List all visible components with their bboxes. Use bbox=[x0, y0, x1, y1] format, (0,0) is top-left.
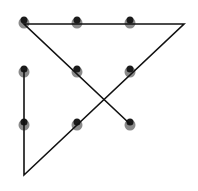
nine-dots-diagram bbox=[0, 0, 198, 191]
dot-5 bbox=[72, 66, 83, 78]
solution-path bbox=[24, 24, 184, 175]
dot-2 bbox=[72, 17, 83, 29]
dot-3 bbox=[125, 17, 136, 29]
